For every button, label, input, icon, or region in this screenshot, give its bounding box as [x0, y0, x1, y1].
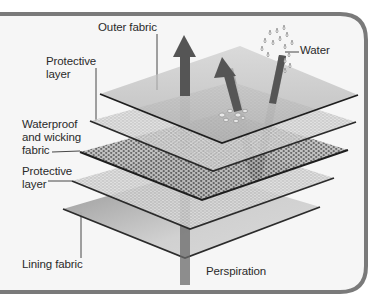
- label-lining-fabric: Lining fabric: [22, 258, 83, 271]
- label-protective-layer-bottom: Protective layer: [22, 165, 72, 191]
- label-waterproof-wicking-fabric: Waterproof and wicking fabric: [22, 118, 81, 157]
- label-outer-fabric: Outer fabric: [98, 21, 157, 34]
- label-water: Water: [300, 44, 330, 57]
- label-perspiration: Perspiration: [206, 265, 266, 278]
- label-protective-layer-top: Protective layer: [46, 55, 96, 81]
